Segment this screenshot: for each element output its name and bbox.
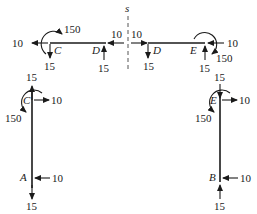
force-label-d-horizontal: 10 xyxy=(111,28,123,40)
top-right-beam: D E 10 15 150 10 15 xyxy=(131,28,239,74)
force-label-c-horizontal: 10 xyxy=(51,94,63,106)
force-label-c-vertical: 15 xyxy=(44,60,56,72)
force-label-b-vertical: 15 xyxy=(214,200,226,212)
node-e-label: E xyxy=(189,44,197,56)
moment-label-e: 150 xyxy=(216,52,233,64)
force-label-e-horizontal: 10 xyxy=(239,94,251,106)
node-c-label: C xyxy=(54,44,62,56)
force-label-e-vertical: 15 xyxy=(214,71,226,83)
force-label-b-horizontal: 10 xyxy=(240,172,252,184)
node-d-label: D xyxy=(152,44,161,56)
node-c-label: C xyxy=(23,94,31,106)
force-label-d-vertical: 15 xyxy=(143,60,155,72)
node-a-label: A xyxy=(19,171,27,183)
force-label-c-horizontal: 10 xyxy=(12,37,24,49)
moment-label-c: 150 xyxy=(64,23,81,35)
moment-label-c: 150 xyxy=(5,112,22,124)
node-b-label: B xyxy=(209,171,216,183)
left-column: C A 15 10 150 10 15 xyxy=(5,71,64,212)
moment-label-e: 150 xyxy=(195,112,212,124)
cut-label: s xyxy=(125,2,129,14)
force-label-a-vertical: 15 xyxy=(26,200,38,212)
section-cut: s xyxy=(125,2,129,70)
right-column: E B 15 10 150 10 15 xyxy=(195,71,252,212)
free-body-diagram: s C D 10 150 15 10 15 D E 10 15 150 xyxy=(0,0,257,214)
top-left-beam: C D 10 150 15 10 15 xyxy=(12,23,124,74)
force-label-e-vertical: 15 xyxy=(199,62,211,74)
node-d-label: D xyxy=(91,44,100,56)
force-label-e-horizontal: 10 xyxy=(227,37,239,49)
force-label-d-vertical: 15 xyxy=(98,62,110,74)
force-label-c-vertical: 15 xyxy=(26,71,38,83)
force-label-a-horizontal: 10 xyxy=(52,172,64,184)
force-label-d-horizontal: 10 xyxy=(131,28,143,40)
